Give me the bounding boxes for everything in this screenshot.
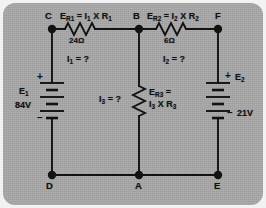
- source-e2-minus-sign: –: [227, 108, 233, 118]
- current-i2-label: I2 = ?: [163, 55, 185, 65]
- er2-x: X R: [178, 11, 196, 21]
- diagram-panel: C B F D A E ER1 = I1 X R1 ER2 = I2 X R2 …: [3, 3, 263, 205]
- i1-tail: = ?: [73, 54, 89, 64]
- circuit-schematic-svg: [3, 3, 263, 205]
- current-i1-label: I1 = ?: [67, 55, 89, 65]
- er3-line2: I3 X R3: [149, 99, 176, 111]
- er3-line1: ER3 =: [149, 87, 176, 99]
- i3-tail: = ?: [105, 94, 121, 104]
- resistor-r2-value: 6Ω: [164, 37, 175, 45]
- current-i3-label: I3 = ?: [99, 95, 121, 105]
- resistor-r1-equation: ER1 = I1 X R1: [60, 12, 112, 22]
- source-e2-plus-sign: +: [225, 71, 231, 81]
- node-label-d: D: [46, 181, 53, 191]
- node-label-c: C: [45, 11, 52, 21]
- node-dot-e: [214, 171, 222, 179]
- er3-rsub: 3: [173, 102, 177, 109]
- resistor-r1-value: 24Ω: [69, 37, 84, 45]
- node-label-f: F: [215, 11, 221, 21]
- resistor-r3-zigzag: [133, 86, 145, 116]
- source-e1-minus-sign: –: [37, 113, 43, 123]
- battery-e1-symbol: [40, 83, 64, 118]
- er2-sub3: 2: [195, 15, 199, 22]
- er1-mid: = I: [74, 11, 87, 21]
- er3-x: X R: [155, 99, 173, 109]
- node-dot-c: [48, 25, 56, 33]
- source-e1-plus-sign: +: [37, 72, 43, 82]
- circuit-diagram-figure: C B F D A E ER1 = I1 X R1 ER2 = I2 X R2 …: [0, 0, 266, 208]
- resistor-r1-zigzag: [65, 23, 95, 35]
- node-dots: [48, 25, 222, 179]
- resistor-r3-equation: ER3 = I3 X R3: [149, 87, 176, 110]
- resistor-r2-equation: ER2 = I2 X R2: [147, 12, 199, 22]
- node-label-b: B: [133, 11, 140, 21]
- er2-mid: = I: [161, 11, 174, 21]
- er3-eq: =: [163, 87, 171, 97]
- node-dot-b: [135, 25, 143, 33]
- er1-sub3: 1: [108, 15, 112, 22]
- resistor-r2-zigzag: [156, 23, 186, 35]
- source-e2-name: E2: [235, 73, 245, 83]
- node-dot-f: [214, 25, 222, 33]
- node-label-e: E: [214, 181, 220, 191]
- node-label-a: A: [135, 181, 142, 191]
- e2-sub: 2: [241, 76, 245, 83]
- e1-sub: 1: [25, 90, 29, 97]
- node-dot-d: [48, 171, 56, 179]
- er1-x: X R: [91, 11, 109, 21]
- source-e1-value: 84V: [15, 101, 31, 110]
- source-e1-name: E1: [19, 87, 29, 97]
- source-e2-value: 21V: [237, 109, 253, 118]
- i2-tail: = ?: [169, 54, 185, 64]
- node-dot-a: [135, 171, 143, 179]
